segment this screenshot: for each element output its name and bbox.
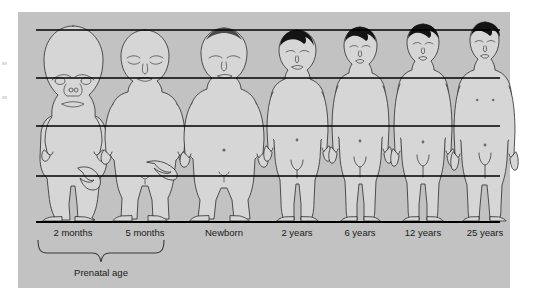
foot-left-12-years	[403, 217, 419, 221]
navel-newborn	[222, 148, 225, 151]
foot-right-25-years	[490, 217, 506, 221]
foot-left-2-months	[43, 217, 62, 221]
bracket-path	[38, 240, 164, 262]
foot-left-6-years	[341, 217, 357, 221]
label-6-years: 6 years	[344, 227, 375, 238]
label-25-years: 25 years	[467, 227, 504, 238]
arm-left-6-years	[332, 86, 338, 153]
growth-proportions-figure: 2 months 5 months Newborn 2 years 6 year…	[0, 0, 534, 307]
foot-left-25-years	[463, 217, 479, 221]
navel-6-years	[359, 140, 362, 143]
figure-6-years	[329, 27, 393, 221]
arm-right-2-years	[322, 92, 328, 152]
arm-left-2-years	[267, 92, 273, 152]
foot-left-2-years	[277, 217, 294, 221]
figure-25-years	[451, 22, 519, 221]
arm-right-6-years	[383, 86, 389, 153]
arm-right-newborn	[256, 103, 264, 158]
stage-label-row: 2 months 5 months Newborn 2 years 6 year…	[53, 227, 503, 238]
body-2-years	[269, 30, 327, 220]
label-newborn: Newborn	[205, 227, 243, 238]
body-silhouettes	[40, 22, 518, 221]
figure-12-years	[391, 24, 456, 221]
arm-right-25-years	[509, 86, 515, 158]
foot-right-2-years	[301, 217, 318, 221]
arm-right-5-months	[177, 104, 185, 156]
arm-left-5-months	[105, 104, 113, 156]
foot-left-5-months	[113, 216, 132, 221]
prenatal-age-label: Prenatal age	[74, 267, 128, 278]
body-newborn	[187, 28, 261, 219]
label-2-years: 2 years	[281, 227, 312, 238]
label-2-months: 2 months	[53, 227, 92, 238]
diagram-canvas: 2 months 5 months Newborn 2 years 6 year…	[0, 0, 534, 307]
figure-newborn	[180, 28, 268, 221]
body-5-months	[108, 30, 182, 219]
foot-right-12-years	[427, 217, 443, 221]
arm-left-12-years	[394, 84, 400, 155]
body-6-years	[334, 27, 387, 220]
label-5-months: 5 months	[125, 227, 164, 238]
foot-right-6-years	[364, 217, 380, 221]
figure-2-months	[40, 26, 107, 221]
navel-2-years	[296, 139, 299, 142]
prenatal-bracket	[38, 240, 164, 262]
label-12-years: 12 years	[405, 227, 442, 238]
navel-25-years	[484, 144, 487, 147]
foot-left-newborn	[190, 216, 209, 221]
navel-12-years	[422, 141, 425, 144]
arm-left-newborn	[184, 103, 192, 158]
body-12-years	[396, 24, 450, 220]
arm-right-12-years	[446, 84, 452, 155]
arm-left-25-years	[454, 86, 460, 158]
